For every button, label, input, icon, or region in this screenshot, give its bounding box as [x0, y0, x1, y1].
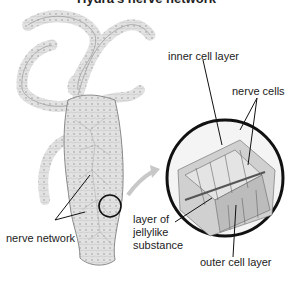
label-jelly-line-3: substance [133, 239, 183, 252]
label-outer-cell-layer: outer cell layer [200, 256, 272, 269]
label-jelly-line-1: layer of [133, 213, 169, 226]
label-jelly-line-2: jellylike [133, 226, 168, 239]
label-inner-cell-layer: inner cell layer [168, 50, 239, 63]
magnify-arrow [128, 172, 152, 195]
label-nerve-cells: nerve cells [232, 85, 285, 98]
label-nerve-network: nerve network [6, 232, 75, 245]
